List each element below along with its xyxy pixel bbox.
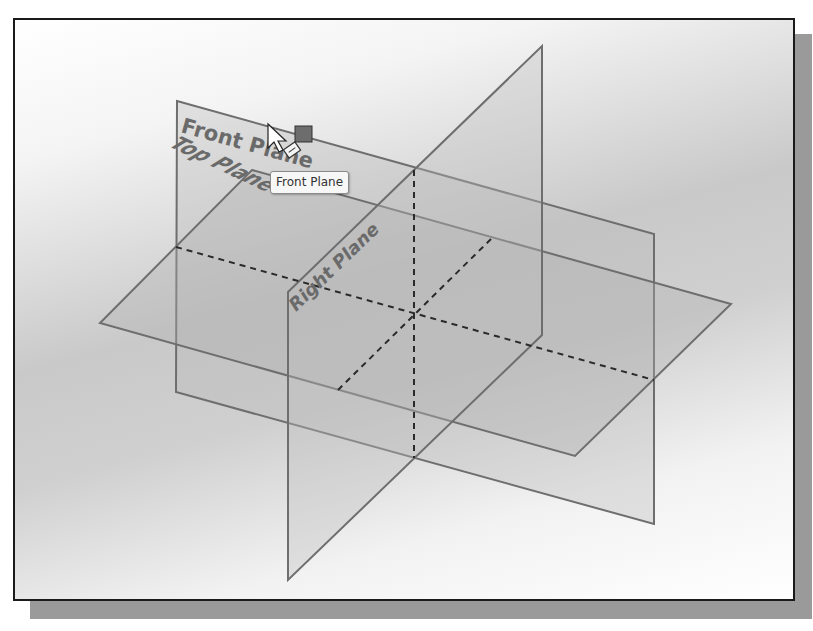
color-swatch-icon: [295, 126, 312, 142]
plane-scene[interactable]: Front Plane Top Plane Right Plane: [0, 0, 813, 631]
tooltip: Front Plane: [270, 171, 349, 194]
